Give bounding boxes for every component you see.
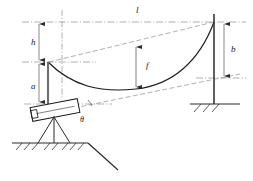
dimension-a: a — [31, 64, 39, 102]
dimension-b: b — [224, 24, 236, 76]
ground-surface-left — [12, 143, 118, 170]
label-l: l — [136, 5, 139, 15]
tripod-stand — [38, 116, 70, 143]
label-h: h — [31, 37, 36, 47]
label-theta: θ — [80, 115, 84, 124]
label-b: b — [231, 44, 236, 54]
ground-surface-right — [190, 104, 240, 112]
label-a: a — [31, 81, 36, 91]
dimension-f: f — [136, 47, 150, 87]
lower-sight-line — [74, 74, 240, 108]
diagram-root: h a l f b θ — [0, 0, 253, 181]
upper-sight-line — [49, 22, 214, 62]
dimension-l: l — [136, 5, 139, 15]
label-f: f — [146, 60, 150, 70]
dimension-h: h — [31, 24, 39, 60]
survey-diagram-svg: h a l f b θ — [0, 0, 253, 181]
angle-theta: θ — [80, 100, 92, 124]
